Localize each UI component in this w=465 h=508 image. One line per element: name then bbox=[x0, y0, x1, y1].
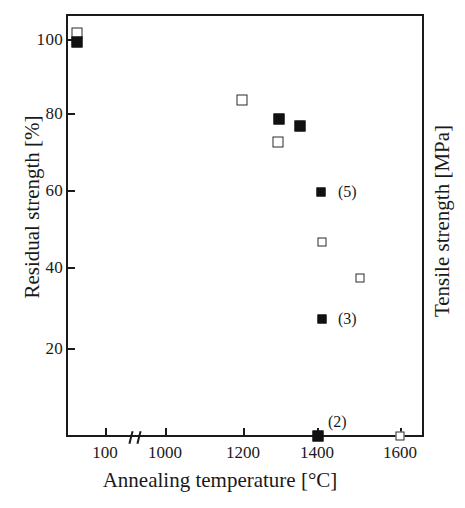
x-tick-1000 bbox=[165, 428, 167, 437]
y-tick-80 bbox=[66, 113, 75, 115]
note-3: (3) bbox=[338, 311, 357, 327]
plot-area bbox=[66, 14, 424, 437]
y-tick-label-60: 60 bbox=[45, 182, 63, 199]
x-tick-label-1600: 1600 bbox=[383, 444, 417, 462]
note-2: (2) bbox=[328, 414, 347, 430]
x-tick-1200 bbox=[243, 428, 245, 437]
point-1300C-75 bbox=[273, 137, 284, 148]
point-1300C-80 bbox=[274, 114, 285, 125]
point-1400C-62 bbox=[317, 188, 326, 197]
y-axis-title-right: Tensile strength [MPa] bbox=[431, 21, 453, 421]
point-1500C-40 bbox=[356, 274, 365, 283]
y-tick-label-80: 80 bbox=[45, 105, 63, 122]
y-tick-label-20: 20 bbox=[45, 340, 63, 357]
point-100C-100 bbox=[72, 37, 83, 48]
x-axis-title: Annealing temperature [°C] bbox=[0, 468, 440, 492]
x-tick-100 bbox=[105, 428, 107, 437]
point-1400C-0 bbox=[313, 431, 324, 442]
x-tick-label-100: 100 bbox=[92, 444, 118, 462]
x-tick-label-1200: 1200 bbox=[226, 444, 260, 462]
point-1600C-0 bbox=[396, 432, 405, 441]
point-1200C-85 bbox=[237, 95, 248, 106]
y-tick-20 bbox=[66, 348, 75, 350]
x-tick-label-1400: 1400 bbox=[300, 444, 334, 462]
y-tick-40 bbox=[66, 267, 75, 269]
x-tick-label-1000: 1000 bbox=[148, 444, 182, 462]
y-axis-title-left: Residual strength [%] bbox=[21, 7, 43, 407]
point-1360C-78 bbox=[295, 121, 306, 132]
note-5: (5) bbox=[338, 184, 357, 200]
y-tick-label-40: 40 bbox=[45, 259, 63, 276]
point-1400C-30 bbox=[318, 315, 327, 324]
point-1400C-49 bbox=[318, 238, 327, 247]
y-tick-60 bbox=[66, 190, 75, 192]
scatter-chart-figure: 100 80 60 40 20 100 1000 1200 1400 1600 … bbox=[0, 0, 465, 508]
